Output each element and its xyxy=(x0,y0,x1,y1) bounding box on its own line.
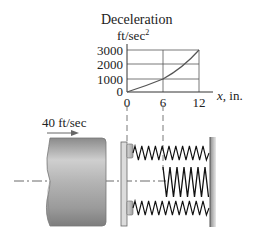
inner-spring xyxy=(163,167,209,197)
velocity-arrow xyxy=(47,130,79,136)
spring-buffer-diagram: Deceleration ft/sec2 3000 2000 1000 0 0 … xyxy=(0,0,253,240)
buffer-plate xyxy=(121,142,127,226)
diagram-graphics xyxy=(0,0,253,240)
fixed-wall xyxy=(210,137,216,227)
chart-grid xyxy=(127,50,199,92)
bottom-spring-cap xyxy=(127,201,133,215)
bottom-outer-spring xyxy=(133,201,209,215)
projection-lines xyxy=(127,105,163,170)
moving-cylinder xyxy=(46,138,106,226)
top-outer-spring xyxy=(133,146,209,160)
chart-axes xyxy=(127,44,213,92)
top-spring-cap xyxy=(127,144,133,158)
